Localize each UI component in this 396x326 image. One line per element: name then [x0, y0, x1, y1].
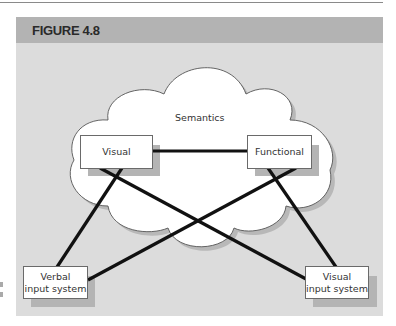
verbal-input-label-line2: input system: [25, 283, 87, 295]
semantics-label: Semantics: [175, 112, 225, 123]
visual-node-label: Visual: [102, 146, 130, 158]
functional-node: Functional: [247, 135, 312, 169]
edge-visual-verbal-input: [57, 168, 122, 267]
verbal-input-label-line1: Verbal: [40, 271, 70, 283]
edge-functional-verbal-input: [88, 168, 296, 280]
visual-input-node: Visual input system: [305, 266, 369, 299]
edge-visual-visual-input: [100, 168, 306, 279]
visual-node: Visual: [80, 135, 153, 169]
visual-input-label-line2: input system: [306, 283, 368, 295]
functional-node-label: Functional: [255, 146, 304, 158]
visual-input-label-line1: Visual: [323, 271, 351, 283]
edge-functional-visual-input: [268, 168, 336, 267]
verbal-input-node: Verbal input system: [23, 266, 88, 299]
